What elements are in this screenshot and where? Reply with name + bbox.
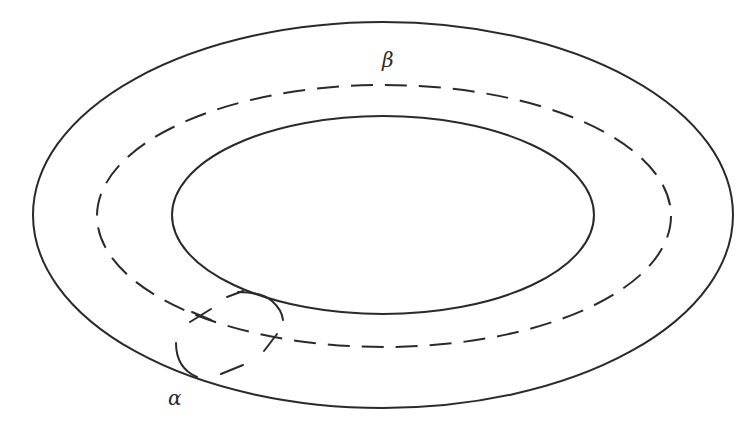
beta-curve bbox=[97, 85, 671, 347]
inner-ellipse bbox=[172, 116, 594, 314]
beta-label: β bbox=[382, 50, 394, 70]
outer-ellipse bbox=[33, 22, 733, 408]
alpha-back-dash-1 bbox=[221, 365, 243, 374]
alpha-label: α bbox=[168, 388, 182, 408]
torus-diagram bbox=[0, 0, 753, 432]
alpha-curve bbox=[176, 291, 283, 377]
alpha-tick bbox=[227, 291, 243, 297]
